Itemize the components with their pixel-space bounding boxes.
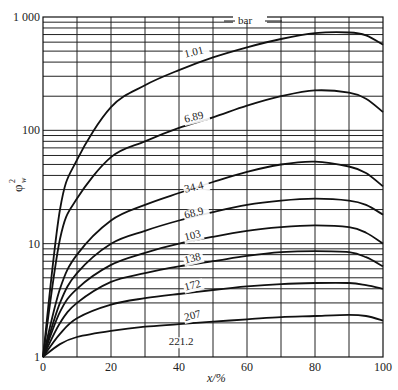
y-axis-label: φ w 2 [8, 177, 28, 192]
y-tick-label: 1 000 [13, 10, 40, 24]
x-tick-label: 100 [374, 360, 392, 374]
legend-title: bar [224, 13, 282, 26]
curve-label: 34.4 [183, 178, 205, 194]
x-tick-label: 20 [105, 360, 117, 374]
y-tick-label: 100 [22, 123, 40, 137]
y-tick-label: 10 [28, 237, 40, 251]
y-tick-label: 1 [34, 350, 40, 364]
x-tick-label: 0 [40, 360, 46, 374]
y-axis-label-sup: 2 [8, 179, 17, 183]
legend-title-text: bar [238, 14, 252, 26]
x-tick-label: 60 [241, 360, 253, 374]
curve-label: 68.9 [183, 204, 205, 220]
chart-canvas: 1.016.8934.468.9103138172207221.2 020406… [0, 0, 398, 390]
y-axis-label-main: φ [10, 184, 25, 192]
x-tick-label: 80 [309, 360, 321, 374]
curve-label: 221.2 [169, 335, 194, 347]
curve-label: 1.01 [183, 43, 205, 59]
curve-label: 6.89 [183, 108, 205, 124]
grid-lines [43, 17, 383, 357]
y-axis-label-sub: w [19, 177, 28, 183]
x-tick-label: 40 [173, 360, 185, 374]
x-axis-label: x/% [206, 371, 226, 385]
